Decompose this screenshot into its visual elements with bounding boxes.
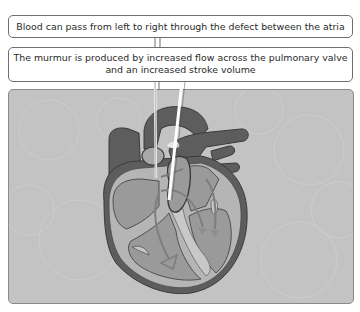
callout-murmur: The murmur is produced by increased flow… bbox=[8, 47, 353, 82]
callout-murmur-line-2: and an increased stroke volume bbox=[9, 64, 352, 76]
callout-atrial-defect-text: Blood can pass from left to right throug… bbox=[16, 21, 344, 32]
callout-atrial-defect: Blood can pass from left to right throug… bbox=[8, 15, 353, 38]
callout-murmur-line-1: The murmur is produced by increased flow… bbox=[9, 52, 352, 64]
